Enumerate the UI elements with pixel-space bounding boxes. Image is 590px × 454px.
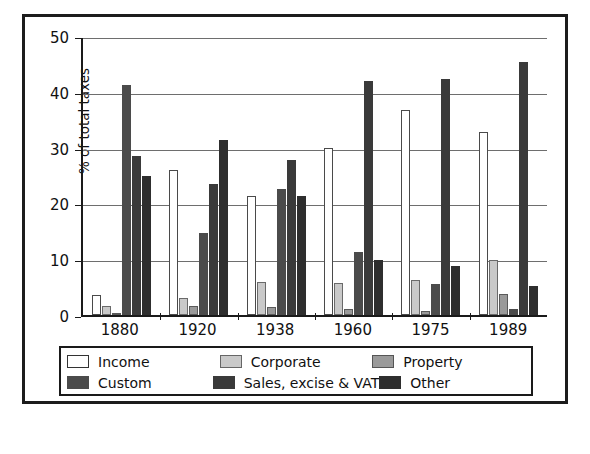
legend-item-custom[interactable]: Custom [67,375,213,391]
x-label-1960: 1960 [314,319,392,343]
bar-1880-other[interactable] [142,176,151,316]
legend-label-sales-excise-vat: Sales, excise & VAT [244,375,380,391]
chart-legend: Income Corporate Property Custom [59,346,533,396]
bar-1989-corporate[interactable] [489,260,498,315]
legend-swatch-property [372,355,394,368]
bar-1920-property[interactable] [189,306,198,315]
bar-1880-corporate[interactable] [102,306,111,315]
bar-1989-other[interactable] [529,286,538,315]
bar-1975-property[interactable] [421,311,430,315]
x-label-1989: 1989 [469,319,547,343]
bar-group-1920 [160,38,237,315]
bar-1920-other[interactable] [219,140,228,315]
bar-1920-custom[interactable] [199,233,208,315]
bar-1989-custom[interactable] [509,309,518,315]
bar-1975-sales-excise-vat[interactable] [441,79,450,315]
bar-1960-property[interactable] [344,309,353,315]
legend-item-corporate[interactable]: Corporate [220,354,373,370]
bar-1880-sales-excise-vat[interactable] [132,156,141,315]
bar-group-1975 [392,38,469,315]
legend-row-2: Custom Sales, excise & VAT Other [67,372,525,393]
chart-figure: % of total taxes 01020304050 18801920193… [22,14,568,404]
legend-label-property: Property [403,354,462,370]
legend-item-other[interactable]: Other [379,375,525,391]
bar-group-1880 [83,38,160,315]
bar-1938-income[interactable] [247,196,256,315]
plot-area [81,38,547,317]
bar-1938-corporate[interactable] [257,282,266,315]
bar-1920-sales-excise-vat[interactable] [209,184,218,315]
legend-row-1: Income Corporate Property [67,351,525,372]
bar-1880-property[interactable] [112,313,121,315]
bar-1960-income[interactable] [324,148,333,315]
y-tick-mark [75,317,81,318]
bar-1960-other[interactable] [374,260,383,315]
bar-1920-corporate[interactable] [179,298,188,315]
bar-1975-corporate[interactable] [411,280,420,315]
bar-1975-other[interactable] [451,266,460,315]
bar-1960-sales-excise-vat[interactable] [364,81,373,315]
bar-1938-custom[interactable] [277,189,286,315]
bar-1989-property[interactable] [499,294,508,315]
bar-1938-other[interactable] [297,196,306,315]
y-tick-label: 10 [35,252,69,270]
bar-1920-income[interactable] [169,170,178,315]
bar-1960-custom[interactable] [354,252,363,315]
legend-label-other: Other [410,375,450,391]
bar-group-1938 [238,38,315,315]
legend-swatch-income [67,355,89,368]
legend-swatch-corporate [220,355,242,368]
bar-1989-income[interactable] [479,132,488,315]
bar-1989-sales-excise-vat[interactable] [519,62,528,315]
x-label-1880: 1880 [81,319,159,343]
legend-item-property[interactable]: Property [372,354,525,370]
y-tick-label: 20 [35,196,69,214]
legend-label-custom: Custom [98,375,152,391]
bar-1880-income[interactable] [92,295,101,315]
legend-swatch-sales-excise-vat [213,376,235,389]
y-tick-label: 40 [35,85,69,103]
y-tick-label: 0 [35,308,69,326]
bar-1975-custom[interactable] [431,284,440,315]
legend-item-income[interactable]: Income [67,354,220,370]
x-label-1938: 1938 [236,319,314,343]
y-tick-label: 30 [35,141,69,159]
legend-swatch-custom [67,376,89,389]
bar-1880-custom[interactable] [122,85,131,315]
bar-1975-income[interactable] [401,110,410,315]
y-axis-ticks: 01020304050 [25,38,81,317]
legend-label-income: Income [98,354,150,370]
bar-groups [83,38,547,315]
y-tick-label: 50 [35,29,69,47]
bar-group-1960 [315,38,392,315]
bar-1938-sales-excise-vat[interactable] [287,160,296,315]
bar-1938-property[interactable] [267,307,276,315]
x-label-1975: 1975 [392,319,470,343]
x-axis-labels: 188019201938196019751989 [81,319,547,343]
bar-group-1989 [470,38,547,315]
legend-swatch-other [379,376,401,389]
legend-item-sales-excise-vat[interactable]: Sales, excise & VAT [213,375,380,391]
bar-1960-corporate[interactable] [334,283,343,315]
legend-label-corporate: Corporate [251,354,321,370]
x-label-1920: 1920 [159,319,237,343]
plot-wrapper: % of total taxes 01020304050 18801920193… [25,17,565,401]
